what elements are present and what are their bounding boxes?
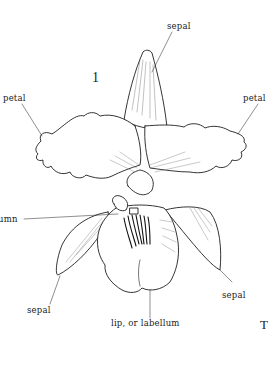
left-petal (36, 113, 141, 179)
label-petal-left: petal (3, 93, 26, 103)
label-sepal-top: sepal (167, 21, 191, 31)
label-sepal-left: sepal (27, 305, 51, 315)
leader-sepal-right (220, 270, 232, 282)
label-sepal-right: sepal (222, 290, 246, 300)
figure-number: 1 (92, 70, 99, 86)
label-lip: lip, or labellum (111, 318, 180, 328)
leader-petal-right (238, 104, 258, 134)
label-column: umn (0, 214, 18, 224)
lip (97, 205, 178, 292)
leader-sepal-top (152, 32, 172, 72)
edge-text: T (260, 317, 268, 333)
leader-sepal-left (50, 276, 60, 304)
dorsal-sepal (124, 50, 167, 129)
column (127, 170, 153, 195)
label-petal-right: petal (243, 93, 266, 103)
leader-petal-left (22, 104, 42, 136)
